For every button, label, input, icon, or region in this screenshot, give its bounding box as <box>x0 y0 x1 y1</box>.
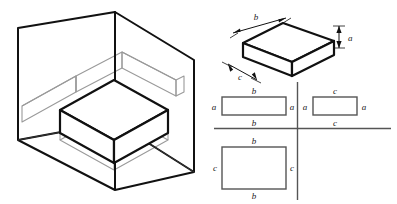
side-view-top-label: c <box>333 86 337 96</box>
top-view-left-label: c <box>213 163 217 173</box>
side-view-right-label: a <box>362 102 367 112</box>
top-view-bottom-label: b <box>252 191 257 201</box>
front-view-rect <box>222 97 286 115</box>
side-view-bottom-label: c <box>333 118 337 128</box>
dimension-label-b: b <box>254 12 259 22</box>
top-view-rect <box>222 147 286 189</box>
front-view-left-label: a <box>212 102 217 112</box>
dimension-label-a: a <box>348 33 353 43</box>
technical-drawing-figure: b c a <box>0 0 397 204</box>
side-view-left-label: a <box>303 102 308 112</box>
dimension-label-c: c <box>238 72 242 82</box>
front-view-top-label: b <box>252 86 257 96</box>
front-view-right-label: a <box>290 102 295 112</box>
top-view-top-label: b <box>252 136 257 146</box>
top-view-right-label: c <box>290 163 294 173</box>
side-view-rect <box>313 97 357 115</box>
front-view-bottom-label: b <box>252 118 257 128</box>
